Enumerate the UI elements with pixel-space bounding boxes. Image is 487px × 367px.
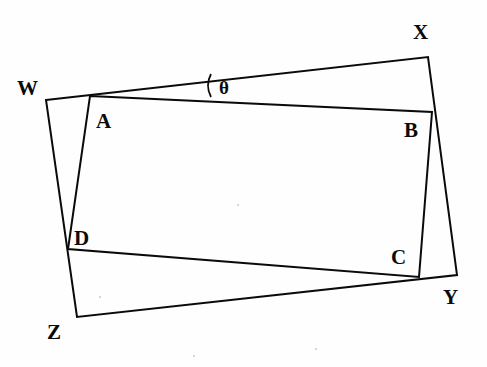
paper-speck	[193, 355, 195, 357]
vertex-label-y: Y	[443, 287, 458, 308]
figure-canvas	[0, 0, 487, 367]
geometry-figure: W X Y Z A B C D θ	[0, 0, 487, 367]
paper-speck	[315, 348, 317, 350]
figure-background	[0, 0, 487, 367]
vertex-label-a: A	[96, 111, 111, 132]
vertex-label-c: C	[391, 247, 406, 268]
paper-speck	[99, 296, 101, 298]
paper-speck	[237, 204, 239, 206]
angle-label-theta: θ	[219, 78, 229, 97]
vertex-label-x: X	[413, 22, 428, 43]
vertex-label-b: B	[404, 120, 418, 141]
vertex-label-d: D	[74, 228, 89, 249]
vertex-label-w: W	[17, 78, 38, 99]
vertex-label-z: Z	[47, 322, 61, 343]
